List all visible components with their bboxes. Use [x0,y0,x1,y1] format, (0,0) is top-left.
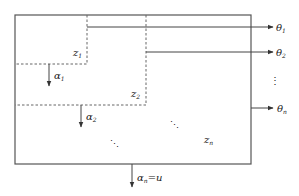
alpha1-label: α1 [54,70,65,82]
z2-boundary [15,15,146,105]
z1-label: z1 [72,47,82,59]
outputs-ellipsis: ⋮ [270,75,280,86]
alpha2-label: α2 [86,111,97,123]
theta1-label: θ1 [276,22,286,34]
diagonal-ellipsis-1: ⋱ [110,139,119,149]
diagonal-ellipsis-2: ⋱ [170,120,179,130]
thetan-label: θn [277,103,287,115]
alphan-label: αn=u [137,172,162,184]
zn-label: zn [203,134,213,146]
theta2-label: θ2 [276,47,286,59]
nested-region-diagram: z1 z2 zn θ1 θ2 θn ⋮ α1 α2 ⋱ ⋱ αn=u [0,0,299,196]
z2-label: z2 [130,88,140,100]
